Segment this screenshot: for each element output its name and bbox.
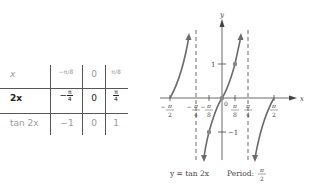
y-axis-arrow-icon [220, 19, 225, 27]
caption-period-num: π [259, 166, 265, 173]
svg-text:2: 2 [272, 111, 276, 118]
caption-period-den: 2 [260, 175, 264, 182]
tan-curve-center-lower [204, 132, 209, 158]
svg-text:π: π [271, 102, 277, 109]
svg-text:−: − [160, 103, 165, 110]
tan-curve-left [170, 36, 189, 98]
caption-equation: y = tan 2x [169, 169, 210, 178]
data-point [207, 130, 211, 134]
svg-text:2: 2 [168, 111, 172, 118]
caption-period-label: Period: [227, 169, 254, 178]
curve-arrow-icon [252, 155, 258, 162]
origin-label: 0 [224, 100, 228, 107]
tan-graph: y x 0 1 −1 − π 2 − π 4 − π 8 π 8 π 4 π 2… [0, 0, 312, 192]
svg-text:8: 8 [233, 111, 237, 118]
y-axis-label: y [219, 11, 225, 19]
curve-arrow-icon [201, 155, 207, 162]
svg-text:π: π [206, 102, 212, 109]
svg-text:π: π [245, 102, 251, 109]
svg-text:π: π [232, 102, 238, 109]
x-axis-arrow-icon [289, 96, 297, 101]
curve-arrow-icon [186, 33, 192, 40]
svg-text:8: 8 [207, 111, 211, 118]
svg-text:4: 4 [194, 111, 198, 118]
svg-text:−: − [200, 103, 205, 110]
svg-text:π: π [193, 102, 199, 109]
data-point [233, 62, 237, 66]
curve-arrow-icon [238, 33, 244, 40]
svg-text:4: 4 [246, 111, 250, 118]
x-axis-label: x [300, 95, 304, 103]
svg-text:−: − [186, 103, 191, 110]
y-tick-neg1: −1 [228, 129, 238, 137]
svg-text:π: π [167, 102, 173, 109]
y-tick-1: 1 [211, 61, 215, 69]
